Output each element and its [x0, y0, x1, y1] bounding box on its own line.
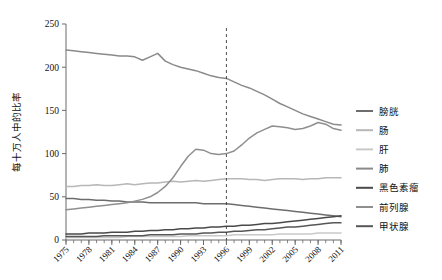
y-tick-label: 150	[45, 106, 60, 116]
legend-item-1[interactable]: 肠	[356, 125, 389, 136]
line-chart: 050100150200250每十万人中的比率19751978198119841…	[0, 0, 442, 280]
legend-item-2[interactable]: 肝	[356, 144, 389, 155]
x-tick-label: 2008	[303, 244, 323, 264]
legend-label-2: 肝	[379, 144, 389, 155]
series-line-3	[66, 50, 341, 125]
legend-label-4: 黑色素瘤	[379, 182, 419, 193]
y-axis-title: 每十万人中的比率	[11, 92, 22, 172]
x-tick-label: 1981	[97, 244, 117, 264]
y-tick-label: 50	[50, 192, 60, 202]
x-tick-label: 2011	[326, 244, 346, 264]
x-tick-label: 1993	[189, 244, 209, 264]
legend-label-1: 肠	[379, 125, 389, 136]
y-tick-label: 0	[54, 235, 59, 245]
y-tick-label: 250	[45, 19, 60, 29]
legend-item-0[interactable]: 膀胱	[356, 106, 399, 117]
series-line-1	[66, 178, 341, 187]
series-line-5	[66, 123, 341, 210]
y-tick-label: 200	[45, 63, 60, 73]
legend-label-0: 膀胱	[379, 106, 399, 117]
x-tick-label: 1978	[74, 244, 94, 264]
x-tick-label: 1984	[120, 244, 140, 264]
chart-canvas: 050100150200250每十万人中的比率19751978198119841…	[0, 0, 442, 280]
legend-item-3[interactable]: 肺	[356, 163, 389, 174]
x-tick-label: 1990	[166, 244, 186, 264]
x-tick-label: 1975	[51, 244, 71, 264]
legend-label-3: 肺	[379, 163, 389, 174]
y-tick-label: 100	[45, 149, 60, 159]
legend-item-5[interactable]: 前列腺	[356, 202, 409, 213]
legend-item-4[interactable]: 黑色素瘤	[356, 182, 419, 193]
legend-label-6: 甲状腺	[379, 221, 409, 232]
series-line-0	[66, 199, 341, 217]
legend-item-6[interactable]: 甲状腺	[356, 221, 409, 232]
legend-label-5: 前列腺	[379, 202, 409, 213]
x-tick-label: 1987	[143, 244, 163, 264]
x-tick-label: 2002	[257, 244, 277, 264]
x-tick-label: 1996	[212, 244, 232, 264]
x-tick-label: 1999	[234, 244, 254, 264]
series-line-4	[66, 216, 341, 234]
x-tick-label: 2005	[280, 244, 300, 264]
